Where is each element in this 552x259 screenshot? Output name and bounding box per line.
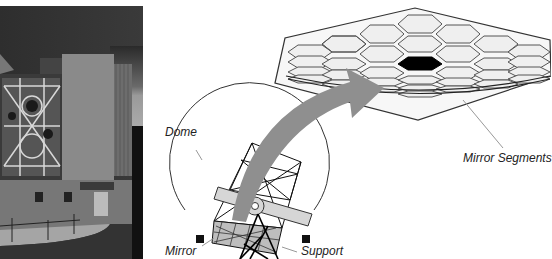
label-support: Support — [301, 244, 343, 258]
dome-base-left-marker — [196, 235, 204, 243]
label-dome: Dome — [165, 125, 197, 139]
label-mirror-segments: Mirror Segments — [463, 151, 552, 165]
label-mirror: Mirror — [165, 244, 196, 258]
highlighted-segment — [398, 57, 442, 70]
dome-base-right-marker — [302, 235, 310, 243]
